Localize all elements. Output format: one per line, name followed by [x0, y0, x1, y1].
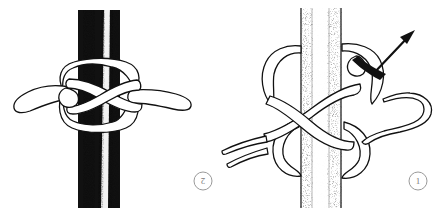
step-number-1-label: 1 [416, 176, 421, 186]
step-number-2-label: 2 [201, 176, 206, 186]
figure-canvas: 2 [0, 0, 444, 208]
knot-diagram-figure: 2 [0, 0, 444, 208]
